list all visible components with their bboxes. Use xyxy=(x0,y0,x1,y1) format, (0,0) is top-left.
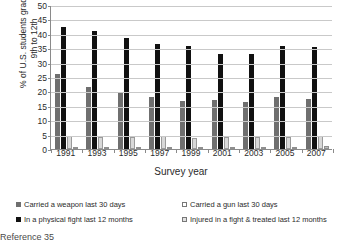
gridline xyxy=(51,20,332,21)
y-tick-mark xyxy=(48,78,51,79)
bar xyxy=(67,136,72,149)
legend-row: Carried a weapon last 30 days Carried a … xyxy=(16,200,336,209)
x-tick-label: 1997 xyxy=(150,148,169,158)
gridline xyxy=(51,6,332,7)
legend-item-carried-weapon: Carried a weapon last 30 days xyxy=(16,200,182,209)
plot-area xyxy=(50,6,332,150)
bar xyxy=(243,102,248,149)
y-tick-label: 35 xyxy=(38,45,47,54)
bar xyxy=(61,27,66,149)
x-axis-title: Survey year xyxy=(30,166,332,177)
legend-label: In a physical fight last 12 months xyxy=(24,215,133,224)
y-tick-mark xyxy=(48,92,51,93)
x-tick-label: 1991 xyxy=(56,148,75,158)
plot-area-wrapper: 05101520253035404550 xyxy=(30,6,332,158)
y-tick-mark xyxy=(48,121,51,122)
bar-chart: % of U.S. students grades 9th to 12th 05… xyxy=(0,0,344,242)
y-tick-label: 0 xyxy=(42,146,47,155)
legend-item-physical-fight: In a physical fight last 12 months xyxy=(16,215,182,224)
legend-item-injured-fight: Injured in a fight & treated last 12 mon… xyxy=(182,215,327,224)
bar xyxy=(312,47,317,149)
y-tick-label: 25 xyxy=(38,74,47,83)
legend-label: Carried a gun last 30 days xyxy=(190,200,278,209)
bar xyxy=(186,46,191,149)
y-tick-mark xyxy=(48,64,51,65)
legend-label: Injured in a fight & treated last 12 mon… xyxy=(190,215,327,224)
legend-swatch-icon xyxy=(16,202,21,207)
y-tick-mark xyxy=(48,35,51,36)
bar xyxy=(274,97,279,149)
x-tick-label: 1993 xyxy=(88,148,107,158)
x-tick-label: 1995 xyxy=(119,148,138,158)
legend-item-carried-gun: Carried a gun last 30 days xyxy=(182,200,278,209)
y-tick-label: 45 xyxy=(38,16,47,25)
y-tick-label: 15 xyxy=(38,103,47,112)
y-tick-label: 10 xyxy=(38,117,47,126)
y-axis-tick-labels: 05101520253035404550 xyxy=(30,6,47,150)
gridline xyxy=(51,35,332,36)
x-tick-label: 2007 xyxy=(307,148,326,158)
legend-row: In a physical fight last 12 months Injur… xyxy=(16,215,336,224)
reference-note: Reference 35 xyxy=(0,232,54,242)
gridline xyxy=(51,78,332,79)
bar xyxy=(149,97,154,149)
gridline xyxy=(51,92,332,93)
bar xyxy=(55,74,60,149)
gridline xyxy=(51,136,332,137)
x-axis-tick-labels: 199119931995199719992001200320052007 xyxy=(50,148,332,160)
bar xyxy=(155,44,160,149)
y-tick-mark xyxy=(48,20,51,21)
y-tick-label: 20 xyxy=(38,88,47,97)
gridline xyxy=(51,49,332,50)
y-tick-mark xyxy=(48,49,51,50)
y-tick-mark xyxy=(48,136,51,137)
legend-swatch-icon xyxy=(16,217,21,222)
bar xyxy=(280,46,285,149)
y-tick-label: 50 xyxy=(38,2,47,11)
x-tick-label: 2001 xyxy=(213,148,232,158)
gridline xyxy=(51,107,332,108)
y-tick-label: 40 xyxy=(38,31,47,40)
y-tick-label: 30 xyxy=(38,60,47,69)
legend-swatch-icon xyxy=(182,202,187,207)
bar xyxy=(86,87,91,149)
legend-label: Carried a weapon last 30 days xyxy=(24,200,125,209)
y-tick-mark xyxy=(48,107,51,108)
x-tick-label: 1999 xyxy=(182,148,201,158)
y-tick-mark xyxy=(48,6,51,7)
x-tick-label: 2005 xyxy=(276,148,295,158)
gridline xyxy=(51,121,332,122)
bar xyxy=(180,101,185,149)
x-tick-mark xyxy=(333,149,334,153)
y-tick-label: 5 xyxy=(42,132,47,141)
legend-swatch-icon xyxy=(182,217,187,222)
x-tick-label: 2003 xyxy=(244,148,263,158)
gridline xyxy=(51,64,332,65)
chart-legend: Carried a weapon last 30 days Carried a … xyxy=(16,200,336,230)
